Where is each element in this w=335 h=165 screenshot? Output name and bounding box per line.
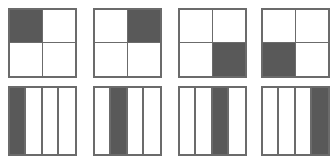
quad-cell-top-right bbox=[296, 10, 329, 43]
column-figure-2 bbox=[93, 86, 162, 156]
column-cell-2 bbox=[111, 88, 127, 154]
quad-cell-bottom-left bbox=[95, 43, 128, 76]
quad-cell-top-right bbox=[128, 10, 161, 43]
quad-cell-bottom-left bbox=[10, 43, 43, 76]
column-cell-3 bbox=[128, 88, 144, 154]
quad-cell-top-right bbox=[213, 10, 246, 43]
column-cell-1 bbox=[180, 88, 196, 154]
quad-figure-1 bbox=[8, 8, 77, 78]
column-figure-1 bbox=[8, 86, 77, 156]
quad-figure-3 bbox=[178, 8, 247, 78]
quad-cell-bottom-left bbox=[263, 43, 296, 76]
column-cell-3 bbox=[213, 88, 229, 154]
column-cell-3 bbox=[43, 88, 59, 154]
column-figure-4 bbox=[261, 86, 330, 156]
quad-cell-top-left bbox=[180, 10, 213, 43]
quad-figure-2 bbox=[93, 8, 162, 78]
figure-sequence-canvas bbox=[0, 0, 335, 165]
quad-cell-top-left bbox=[10, 10, 43, 43]
quad-cell-bottom-right bbox=[128, 43, 161, 76]
column-cell-2 bbox=[26, 88, 42, 154]
quad-cell-bottom-right bbox=[43, 43, 76, 76]
quad-cell-top-right bbox=[43, 10, 76, 43]
column-cell-1 bbox=[10, 88, 26, 154]
quad-cell-top-left bbox=[95, 10, 128, 43]
quad-cell-bottom-right bbox=[213, 43, 246, 76]
column-cell-1 bbox=[95, 88, 111, 154]
column-cell-4 bbox=[229, 88, 245, 154]
column-cell-4 bbox=[144, 88, 160, 154]
quad-cell-top-left bbox=[263, 10, 296, 43]
quad-cell-bottom-right bbox=[296, 43, 329, 76]
column-cell-1 bbox=[263, 88, 279, 154]
quad-cell-bottom-left bbox=[180, 43, 213, 76]
column-cell-2 bbox=[196, 88, 212, 154]
quad-figure-4 bbox=[261, 8, 330, 78]
column-cell-4 bbox=[312, 88, 328, 154]
column-cell-3 bbox=[296, 88, 312, 154]
column-cell-2 bbox=[279, 88, 295, 154]
column-figure-3 bbox=[178, 86, 247, 156]
column-cell-4 bbox=[59, 88, 75, 154]
